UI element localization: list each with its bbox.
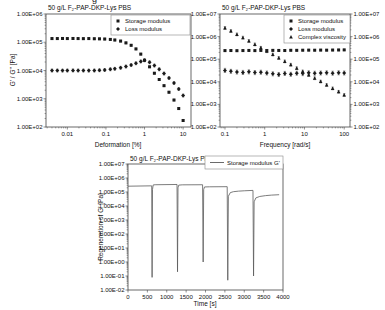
y-tick-label: 1.00E-01 <box>100 273 125 279</box>
triangle-marker <box>295 66 299 70</box>
diamond-marker <box>97 68 101 72</box>
diamond-marker <box>113 67 117 71</box>
y-tick-label: 1.00E+06 <box>17 11 44 17</box>
x-tick-label: 100 <box>339 131 350 137</box>
square-marker <box>172 99 175 102</box>
amplitude-sweep-chart: 0.010.1110Deformation [%]1.00E+061.00E+0… <box>8 0 200 152</box>
triangle-marker <box>283 59 287 63</box>
regeneration-chart: 05001000150020002500300035004000Time [s]… <box>96 152 308 310</box>
square-marker <box>117 20 120 23</box>
diamond-marker <box>81 69 85 73</box>
square-marker <box>66 37 69 40</box>
y-tick-label: 1.00E+05 <box>191 56 218 62</box>
x-tick-label: 3500 <box>257 294 271 300</box>
square-marker <box>247 49 250 52</box>
diamond-marker <box>124 65 128 69</box>
diamond-marker <box>152 64 156 68</box>
series-storage-modulus <box>50 37 184 122</box>
square-marker <box>271 49 274 52</box>
diamond-marker <box>129 63 133 67</box>
y-right-tick-label: 1.00E+05 <box>354 56 381 62</box>
square-marker <box>343 48 346 51</box>
diamond-marker <box>319 71 323 75</box>
diamond-marker <box>108 67 112 71</box>
rheology-figure: g 0.010.1110Deformation [%]1.00E+061.00E… <box>0 0 385 310</box>
y-right-tick-label: 1.00E+02 <box>354 124 381 130</box>
square-marker <box>241 49 244 52</box>
triangle-marker <box>319 80 323 84</box>
square-marker <box>289 49 292 52</box>
x-tick-label: 0.1 <box>221 131 230 137</box>
square-marker <box>148 65 151 68</box>
square-marker <box>56 37 59 40</box>
y-tick-label: 1.00E+04 <box>17 68 44 74</box>
y-tick-label: 1.00E+04 <box>191 79 218 85</box>
x-tick-label: 3000 <box>238 294 252 300</box>
y-axis-title: Regeneration of G' [Pa] <box>97 193 105 261</box>
square-marker <box>235 49 238 52</box>
square-marker <box>109 38 112 41</box>
diamond-marker <box>241 70 245 74</box>
diamond-marker <box>295 71 299 75</box>
x-tick-label: 1000 <box>160 294 174 300</box>
diamond-marker <box>177 87 181 91</box>
y-right-tick-label: 1.00E+04 <box>354 79 381 85</box>
diamond-marker <box>92 69 96 73</box>
triangle-marker <box>253 42 257 46</box>
square-marker <box>337 48 340 51</box>
y-tick-label: 1.00E+05 <box>17 39 44 45</box>
legend-label: Storage modulus <box>125 18 170 24</box>
chart-title: 50 g/L F₂-PAP-DKP-Lys PBS <box>130 155 214 163</box>
legend-label: Storage modulus G' <box>227 160 280 166</box>
square-marker <box>50 37 53 40</box>
diamond-marker <box>247 70 251 74</box>
diamond-marker <box>337 71 341 75</box>
diamond-marker <box>167 76 171 80</box>
x-tick-label: 0 <box>126 294 130 300</box>
chart-title: 50 g/L F₂-PAP-DKP-Lys PBS <box>222 4 306 12</box>
diamond-marker <box>235 70 239 74</box>
diamond-marker <box>181 94 185 98</box>
square-marker <box>124 41 127 44</box>
legend: Storage modulusLoss modulusComplex visco… <box>284 15 350 43</box>
diamond-marker <box>134 61 138 65</box>
x-tick-label: 10 <box>301 131 308 137</box>
frequency-sweep-chart: 0.1110100Frequency [rad/s]1.00E+071.00E+… <box>190 0 385 152</box>
square-marker <box>163 84 166 87</box>
y-axis: 1.00E+071.00E+061.00E+051.00E+041.00E+03… <box>191 11 220 130</box>
diamond-marker <box>103 68 107 72</box>
square-marker <box>139 53 142 56</box>
y-tick-label: 1.00E+07 <box>99 161 126 167</box>
diamond-marker <box>271 72 275 76</box>
x-tick-label: 500 <box>142 294 153 300</box>
square-marker <box>167 91 170 94</box>
triangle-marker <box>241 36 245 40</box>
legend-label: Storage modulus <box>298 18 343 24</box>
plot-frame <box>128 164 283 290</box>
square-marker <box>319 49 322 52</box>
triangle-marker <box>223 26 227 30</box>
diamond-marker <box>172 81 176 85</box>
diamond-marker <box>119 66 123 70</box>
square-marker <box>229 49 232 52</box>
diamond-marker <box>283 71 287 75</box>
square-marker <box>301 49 304 52</box>
y-tick-label: 1.00E+06 <box>99 175 126 181</box>
diamond-marker <box>71 68 75 72</box>
diamond-marker <box>50 69 54 73</box>
square-marker <box>98 37 101 40</box>
triangle-marker <box>313 76 317 80</box>
square-marker <box>313 49 316 52</box>
square-marker <box>113 39 116 42</box>
square-marker <box>87 37 90 40</box>
y-axis-title: G' / G'' [Pa] <box>9 53 17 86</box>
x-axis-title: Frequency [rad/s] <box>260 141 311 149</box>
square-marker <box>253 49 256 52</box>
triangle-marker <box>235 32 239 36</box>
x-tick-label: 0.01 <box>61 131 73 137</box>
diamond-marker <box>342 71 346 75</box>
triangle-marker <box>289 63 293 67</box>
x-tick-label: 4000 <box>276 294 290 300</box>
chart-title: 50 g/L F₂-PAP-DKP-Lys PBS <box>48 4 132 12</box>
x-tick-label: 1 <box>263 131 267 137</box>
